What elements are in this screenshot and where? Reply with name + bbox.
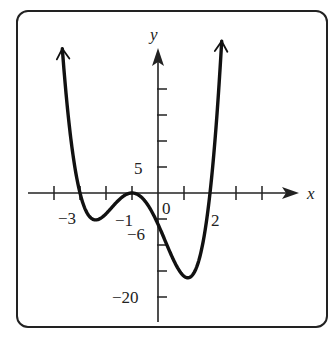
x-tick-label-2: 2 (211, 211, 220, 230)
x-tick-label-0: 0 (162, 199, 171, 218)
y-axis-label: y (148, 25, 158, 44)
function-graph: y x −3 −1 0 2 5 −6 −20 (0, 0, 332, 337)
y-tick-label-minus-20: −20 (112, 288, 139, 307)
y-tick-label-minus-6: −6 (127, 225, 145, 244)
x-axis-label: x (306, 184, 315, 203)
y-tick-label-5: 5 (134, 159, 143, 178)
x-tick-label-minus-3: −3 (58, 209, 76, 228)
